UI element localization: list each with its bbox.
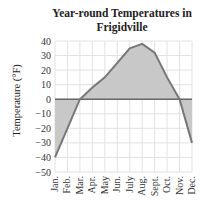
x-tick-label: Mar. <box>74 176 85 195</box>
y-tick-label: 20 <box>41 65 51 76</box>
x-tick-label: Nov. <box>174 176 185 195</box>
y-tick-label: 30 <box>41 50 51 61</box>
x-tick-label: Apr. <box>86 176 97 194</box>
y-tick-label: −20 <box>35 123 51 134</box>
y-tick-label: −10 <box>35 108 51 119</box>
y-tick-label: 40 <box>41 36 51 47</box>
x-tick-label: May <box>99 176 110 194</box>
x-tick-label: July <box>124 176 135 193</box>
x-tick-label: Oct. <box>161 176 172 193</box>
y-axis-ticks: 403020100−10−20−30−40−50 <box>35 36 51 178</box>
y-tick-label: −40 <box>35 152 51 163</box>
area-chart: 403020100−10−20−30−40−50 Jan.Feb.Mar.Apr… <box>0 0 204 209</box>
x-tick-label: Dec. <box>186 176 197 195</box>
y-tick-label: 0 <box>46 94 51 105</box>
x-axis-ticks: Jan.Feb.Mar.Apr.MayJun.JulyAug.Sept.Oct.… <box>49 176 197 196</box>
y-tick-label: −50 <box>35 167 51 178</box>
x-tick-label: Jan. <box>49 176 60 192</box>
data-area <box>55 44 192 158</box>
x-tick-label: Aug. <box>136 176 147 196</box>
y-tick-label: −30 <box>35 137 51 148</box>
x-tick-label: Feb. <box>61 176 72 194</box>
x-tick-label: Jun. <box>111 176 122 192</box>
x-tick-label: Sept. <box>149 176 160 196</box>
area-fill <box>55 44 192 158</box>
y-tick-label: 10 <box>41 79 51 90</box>
